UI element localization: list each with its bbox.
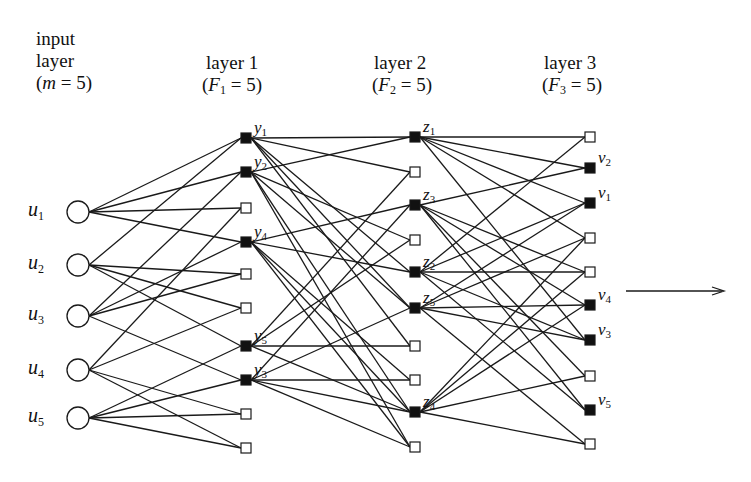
label-base: z bbox=[423, 288, 430, 307]
edge-input-l1 bbox=[89, 316, 241, 380]
label-subscript: 5 bbox=[606, 398, 612, 410]
label-base: v bbox=[598, 390, 606, 409]
edge-l2-l3 bbox=[420, 305, 585, 412]
input-node-label: u2 bbox=[28, 251, 44, 277]
label-subscript: 2 bbox=[606, 156, 612, 168]
label-base: u bbox=[28, 198, 38, 220]
active-node bbox=[410, 303, 420, 313]
node-label: z1 bbox=[423, 117, 435, 137]
edge-l1-l2 bbox=[251, 205, 410, 242]
edge-input-l1 bbox=[89, 265, 241, 274]
param-symbol: F bbox=[378, 74, 390, 95]
label-base: v bbox=[598, 148, 606, 167]
active-node bbox=[585, 163, 595, 173]
edge-input-l1 bbox=[89, 380, 241, 418]
node-label: z5 bbox=[423, 288, 435, 308]
label-base: v bbox=[598, 183, 606, 202]
param-value: = 5) bbox=[566, 74, 602, 95]
edge-l1-l2 bbox=[251, 172, 410, 240]
active-node bbox=[585, 198, 595, 208]
label-subscript: 3 bbox=[38, 313, 44, 327]
edge-l2-l3 bbox=[420, 412, 585, 444]
label-subscript: 1 bbox=[262, 126, 268, 138]
edge-input-l1 bbox=[89, 308, 241, 370]
label-subscript: 2 bbox=[38, 262, 44, 276]
param-symbol: F bbox=[548, 74, 560, 95]
edge-l2-l3 bbox=[420, 168, 585, 205]
edge-input-l1 bbox=[89, 208, 241, 212]
edge-l1-l2 bbox=[251, 137, 410, 138]
inactive-node bbox=[410, 375, 420, 385]
label-base: u bbox=[28, 404, 38, 426]
label-base: z bbox=[423, 117, 430, 136]
label-subscript: 1 bbox=[430, 125, 436, 137]
active-node bbox=[241, 167, 251, 177]
input-layer-param: (m = 5) bbox=[36, 72, 92, 94]
active-node bbox=[241, 375, 251, 385]
edge-input-l1 bbox=[89, 265, 241, 308]
active-node bbox=[585, 335, 595, 345]
node-label: v3 bbox=[598, 320, 611, 340]
layer2-title: layer 2 bbox=[372, 52, 432, 74]
node-label: z4 bbox=[423, 392, 435, 412]
layer3-title: layer 3 bbox=[542, 52, 602, 74]
input-node-label: u3 bbox=[28, 302, 44, 328]
active-node bbox=[585, 300, 595, 310]
inactive-node bbox=[241, 203, 251, 213]
input-node bbox=[67, 201, 89, 223]
node-label: z3 bbox=[423, 185, 435, 205]
input-node-label: u4 bbox=[28, 356, 44, 382]
input-node bbox=[67, 407, 89, 429]
edge-l1-l2 bbox=[251, 346, 410, 412]
layer1-title: layer 1 bbox=[202, 52, 262, 74]
label-subscript: 1 bbox=[606, 191, 612, 203]
node-label: y2 bbox=[254, 152, 267, 172]
neural-network-diagram: input layer (m = 5) layer 1 (F1 = 5) lay… bbox=[0, 0, 751, 482]
node-label: v4 bbox=[598, 285, 611, 305]
edge-l1-l2 bbox=[251, 172, 410, 447]
inactive-node bbox=[241, 443, 251, 453]
layer1-header: layer 1 (F1 = 5) bbox=[202, 52, 262, 101]
edge-l2-l3 bbox=[420, 137, 585, 203]
edge-l2-l3 bbox=[420, 376, 585, 412]
input-node bbox=[67, 359, 89, 381]
label-subscript: 4 bbox=[430, 400, 436, 412]
edge-input-l1 bbox=[89, 208, 241, 370]
label-base: y bbox=[254, 118, 262, 137]
label-base: v bbox=[598, 285, 606, 304]
node-label: y4 bbox=[254, 222, 267, 242]
input-layer-header: input layer (m = 5) bbox=[36, 28, 92, 94]
edge-input-l1 bbox=[89, 172, 241, 212]
edge-l2-l3 bbox=[420, 238, 585, 412]
label-subscript: 4 bbox=[262, 230, 268, 242]
edge-l1-l2 bbox=[251, 308, 410, 380]
edge-l1-l2 bbox=[251, 380, 410, 447]
active-node bbox=[410, 407, 420, 417]
node-label: y1 bbox=[254, 118, 267, 138]
edge-l2-l3 bbox=[420, 238, 585, 308]
layer2-param: (F2 = 5) bbox=[372, 74, 432, 101]
active-node bbox=[241, 237, 251, 247]
label-base: u bbox=[28, 302, 38, 324]
layer3-param: (F3 = 5) bbox=[542, 74, 602, 101]
edge-l2-l3 bbox=[420, 308, 585, 340]
input-node-label: u1 bbox=[28, 198, 44, 224]
layer2-header: layer 2 (F2 = 5) bbox=[372, 52, 432, 101]
label-base: y bbox=[254, 152, 262, 171]
input-node bbox=[67, 305, 89, 327]
label-subscript: 4 bbox=[606, 293, 612, 305]
label-subscript: 2 bbox=[262, 160, 268, 172]
edge-input-l1 bbox=[89, 418, 241, 448]
inactive-node bbox=[410, 341, 420, 351]
edge-input-l1 bbox=[89, 414, 241, 418]
inactive-node bbox=[585, 267, 595, 277]
active-node bbox=[410, 200, 420, 210]
label-base: u bbox=[28, 251, 38, 273]
label-base: z bbox=[423, 252, 430, 271]
inactive-node bbox=[410, 235, 420, 245]
label-subscript: 3 bbox=[606, 328, 612, 340]
label-base: z bbox=[423, 185, 430, 204]
edge-l1-l2 bbox=[251, 138, 410, 272]
inactive-node bbox=[241, 303, 251, 313]
input-node bbox=[67, 254, 89, 276]
